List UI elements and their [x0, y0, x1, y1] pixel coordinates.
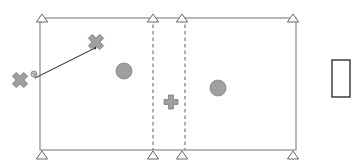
floorplan-diagram	[0, 0, 359, 168]
circle-marker-left	[116, 63, 132, 79]
triangle-marker-group	[36, 14, 298, 159]
cross-marker-outer-left	[9, 69, 32, 92]
speckled-dot-marker	[31, 71, 37, 77]
diagram-canvas	[0, 0, 359, 168]
circle-marker-group	[116, 63, 226, 96]
connector-line	[35, 48, 95, 78]
triangle-marker-bottom-mid-left	[147, 151, 158, 159]
side-rectangle	[332, 60, 350, 97]
room-outline	[40, 18, 296, 150]
triangle-marker-bottom-mid-right	[176, 151, 187, 159]
dot-marker-group	[31, 71, 37, 77]
cross-marker-upper	[85, 31, 108, 54]
triangle-marker-bottom-left	[36, 151, 47, 159]
circle-marker-right	[210, 80, 226, 96]
cross-marker-center	[164, 95, 178, 109]
triangle-marker-bottom-right	[287, 151, 298, 159]
dashed-divider-group	[153, 18, 185, 150]
